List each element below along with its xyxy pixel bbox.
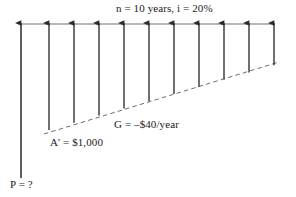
period-interest-label: n = 10 years, i = 20% [116,2,213,14]
base-annuity-label: A' = $1,000 [50,136,103,148]
cash-flow-canvas [0,0,296,197]
receipt-arrows-group [49,23,274,130]
gradient-amount-label: G = –$40/year [114,118,179,130]
cash-flow-diagram: n = 10 years, i = 20% G = –$40/year A' =… [0,0,296,197]
present-worth-label: P = ? [10,178,33,190]
